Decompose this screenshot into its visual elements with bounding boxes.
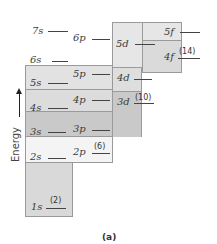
capacity-d: (10) <box>135 94 151 102</box>
level-5s: 5s <box>30 78 42 88</box>
level-5f-line <box>180 32 200 33</box>
level-2p-line <box>92 153 110 154</box>
energy-axis-label: Energy <box>10 127 21 162</box>
level-6p-line <box>92 39 110 40</box>
level-5f: 5f <box>164 27 174 37</box>
level-7s-line <box>48 31 68 32</box>
level-2s-line <box>48 158 66 159</box>
level-3p-line <box>92 130 110 131</box>
level-3p: 3p <box>73 124 86 134</box>
level-5d: 5d <box>116 39 129 49</box>
level-1s: 1s <box>31 202 43 212</box>
level-1s-line <box>46 208 66 209</box>
level-3d-line <box>134 103 154 104</box>
level-4f-line <box>178 58 200 59</box>
level-3d: 3d <box>117 97 130 107</box>
level-4f: 4f <box>164 52 174 62</box>
level-4p: 4p <box>73 95 86 105</box>
level-4d: 4d <box>117 73 130 83</box>
level-5p-line <box>92 74 110 75</box>
energy-arrow-icon <box>19 93 20 117</box>
capacity-p: (6) <box>94 143 105 151</box>
level-4s: 4s <box>30 103 42 113</box>
level-3s: 3s <box>30 127 42 137</box>
level-4d-line <box>134 79 152 80</box>
level-4p-line <box>92 100 110 101</box>
capacity-s: (2) <box>50 197 61 205</box>
level-7s: 7s <box>32 26 44 36</box>
level-6s-line <box>52 61 68 62</box>
level-5s-line <box>48 83 68 84</box>
orbital-5f-box <box>142 22 182 41</box>
level-2p: 2p <box>73 147 86 157</box>
figure-caption: (a) <box>102 232 116 242</box>
capacity-f: (14) <box>179 48 195 56</box>
level-4s-line <box>48 108 68 109</box>
level-6s: 6s <box>30 55 42 65</box>
level-3s-line <box>48 132 66 133</box>
level-2s: 2s <box>30 152 42 162</box>
level-6p: 6p <box>73 33 86 43</box>
level-5d-line <box>135 44 155 45</box>
level-5p: 5p <box>73 69 86 79</box>
